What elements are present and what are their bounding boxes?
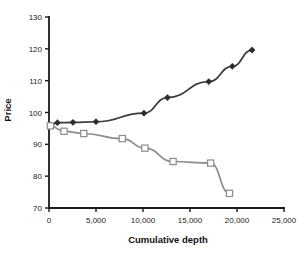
data-point-marker: [208, 160, 214, 166]
y-tick-label: 70: [33, 204, 42, 213]
series-line-bid: [50, 126, 229, 193]
y-tick-label: 90: [33, 140, 42, 149]
data-point-marker: [142, 145, 148, 151]
y-tick-labels: 708090100110120130: [29, 13, 43, 213]
data-point-marker: [141, 111, 146, 116]
data-point-marker: [170, 158, 176, 164]
data-point-marker: [70, 120, 75, 125]
y-axis-title: Price: [2, 98, 13, 121]
series-ask: [48, 48, 255, 128]
series-layer: [47, 48, 254, 197]
x-tick-label: 0: [47, 216, 52, 225]
x-tick-label: 25,000: [272, 216, 297, 225]
data-point-marker: [249, 48, 254, 53]
y-tick-label: 100: [29, 109, 43, 118]
data-point-marker: [230, 64, 235, 69]
x-axis-group: 05,00010,00015,00020,00025,000: [47, 208, 297, 225]
data-point-marker: [165, 95, 170, 100]
y-axis-group: 708090100110120130: [29, 13, 49, 213]
x-tick-label: 10,000: [131, 216, 156, 225]
price-depth-chart: 708090100110120130 05,00010,00015,00020,…: [0, 0, 307, 253]
data-point-marker: [55, 120, 60, 125]
y-tick-label: 120: [29, 45, 43, 54]
data-point-marker: [206, 79, 211, 84]
x-tick-label: 15,000: [178, 216, 203, 225]
data-point-marker: [93, 119, 98, 124]
chart-canvas: 708090100110120130 05,00010,00015,00020,…: [0, 0, 307, 253]
y-tick-label: 110: [29, 77, 42, 86]
series-bid: [47, 123, 232, 197]
data-point-marker: [47, 123, 53, 129]
x-axis-title: Cumulative depth: [128, 234, 208, 245]
x-tick-label: 20,000: [225, 216, 250, 225]
data-point-marker: [226, 190, 232, 196]
y-tick-label: 130: [29, 13, 43, 22]
series-line-ask: [50, 50, 252, 125]
data-point-marker: [81, 130, 87, 136]
data-point-marker: [61, 128, 67, 134]
data-point-marker: [119, 136, 125, 142]
x-tick-label: 5,000: [86, 216, 107, 225]
y-tick-label: 80: [33, 172, 42, 181]
x-tick-labels: 05,00010,00015,00020,00025,000: [47, 216, 297, 225]
